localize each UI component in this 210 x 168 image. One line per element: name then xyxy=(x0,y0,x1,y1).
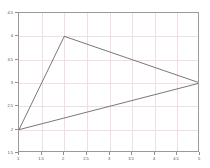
x-tick-label: 1 xyxy=(17,156,19,161)
y-tick-mark xyxy=(15,152,18,153)
y-tick-mark xyxy=(15,59,18,60)
x-tick-label: 3 xyxy=(108,156,110,161)
x-tick-label: 4 xyxy=(153,156,155,161)
x-tick-mark xyxy=(176,152,177,155)
x-tick-label: 1.5 xyxy=(38,156,44,161)
x-tick-mark xyxy=(86,152,87,155)
figure-canvas: 11.522.533.544.55 1.522.533.544.5 xyxy=(0,0,210,168)
x-tick-label: 3.5 xyxy=(128,156,134,161)
y-tick-label: 4.5 xyxy=(0,10,13,15)
x-tick-mark xyxy=(154,152,155,155)
x-tick-mark xyxy=(131,152,132,155)
plot-area xyxy=(18,12,199,152)
y-tick-mark xyxy=(15,35,18,36)
y-tick-label: 3.5 xyxy=(0,57,13,62)
x-tick-label: 4.5 xyxy=(173,156,179,161)
x-tick-label: 2.5 xyxy=(83,156,89,161)
y-tick-label: 2 xyxy=(0,127,13,132)
y-tick-label: 2.5 xyxy=(0,103,13,108)
y-tick-mark xyxy=(15,12,18,13)
y-tick-mark xyxy=(15,82,18,83)
x-tick-mark xyxy=(63,152,64,155)
series-line-triangle xyxy=(19,36,199,129)
y-tick-mark xyxy=(15,129,18,130)
x-tick-mark xyxy=(18,152,19,155)
y-tick-mark xyxy=(15,105,18,106)
x-tick-label: 5 xyxy=(198,156,200,161)
data-series-layer xyxy=(19,13,199,152)
y-tick-label: 3 xyxy=(0,80,13,85)
y-tick-label: 4 xyxy=(0,33,13,38)
x-tick-mark xyxy=(41,152,42,155)
y-tick-label: 1.5 xyxy=(0,150,13,155)
x-tick-label: 2 xyxy=(62,156,64,161)
x-tick-mark xyxy=(199,152,200,155)
x-tick-mark xyxy=(109,152,110,155)
